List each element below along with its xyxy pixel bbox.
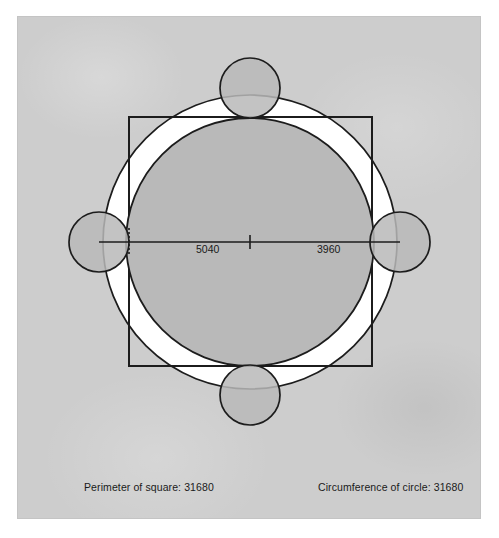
paper-sheet: 5040 3960 Perimeter of square: 31680 Cir…	[18, 17, 480, 518]
left-segment-label: 5040	[196, 243, 219, 255]
small-circle-bottom	[220, 365, 280, 425]
circumference-of-circle-caption: Circumference of circle: 31680	[318, 481, 463, 493]
perimeter-of-square-caption: Perimeter of square: 31680	[84, 481, 214, 493]
screenshot-root: 5040 3960 Perimeter of square: 31680 Cir…	[0, 0, 499, 538]
geometry-figure	[18, 17, 480, 518]
right-segment-label: 3960	[317, 243, 340, 255]
small-circle-top	[220, 58, 280, 118]
